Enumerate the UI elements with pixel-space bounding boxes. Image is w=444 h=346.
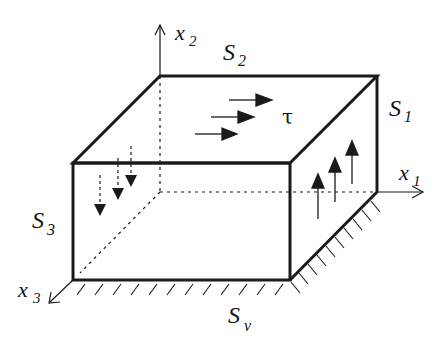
surface-s3-subscript: 3 — [46, 221, 55, 238]
hidden-edges — [80, 76, 377, 273]
surface-s1-subscript: 1 — [404, 108, 412, 125]
surface-s2-label: S — [223, 39, 235, 65]
x2-axis-label: x — [174, 20, 185, 45]
x3-axis-subscript: 3 — [32, 290, 41, 306]
x3-axis — [49, 280, 73, 303]
arrow-down-icon — [94, 175, 106, 216]
x1-axis-subscript: 1 — [413, 173, 421, 189]
right-face-traction-arrows — [312, 141, 358, 219]
x2-axis-subscript: 2 — [189, 33, 197, 49]
front-face-traction-arrows — [94, 146, 137, 216]
arrow-up-icon — [329, 158, 341, 202]
shear-traction-label: τ — [282, 105, 293, 129]
arrow-right-icon — [211, 111, 254, 123]
x2-axis — [155, 25, 165, 76]
front-face-outline — [73, 163, 290, 280]
hidden-edge-diagonal — [80, 192, 160, 273]
arrow-up-icon — [346, 141, 358, 184]
top-face-outline — [73, 76, 377, 163]
x1-axis-label: x — [398, 160, 409, 185]
surface-sv-label: S — [228, 302, 240, 328]
block-diagram: x 2 x 1 x 3 S 2 S 1 S 3 S ν τ — [0, 0, 444, 346]
arrow-right-icon — [195, 128, 237, 140]
arrow-up-icon — [312, 174, 324, 219]
right-face-outline — [290, 76, 377, 280]
arrow-right-icon — [229, 94, 272, 106]
surface-s3-label: S — [32, 207, 44, 233]
x3-axis-label: x — [17, 277, 28, 302]
top-face-traction-arrows — [195, 94, 272, 140]
surface-sv-subscript: ν — [244, 317, 252, 334]
surface-s2-subscript: 2 — [238, 52, 246, 69]
arrow-down-icon — [125, 146, 137, 187]
surface-s1-label: S — [389, 95, 401, 121]
